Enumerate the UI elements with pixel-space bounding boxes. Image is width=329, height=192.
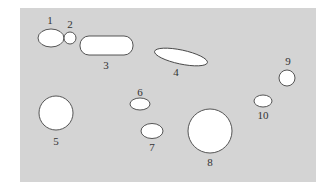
shape-label-10: 10	[258, 109, 270, 121]
shape-7	[141, 124, 163, 139]
shape-label-5: 5	[53, 135, 59, 147]
shape-label-3: 3	[103, 59, 109, 71]
shape-2	[64, 32, 76, 44]
gray-panel	[20, 8, 316, 182]
shape-9	[279, 70, 295, 86]
shape-8	[188, 109, 232, 153]
shape-3	[80, 36, 133, 55]
shapes-diagram: 12345678910	[0, 0, 329, 192]
shape-label-8: 8	[207, 156, 213, 168]
shape-label-6: 6	[137, 86, 143, 98]
shape-1	[38, 29, 64, 47]
shape-label-7: 7	[149, 141, 155, 153]
shape-5	[39, 96, 73, 130]
shape-label-2: 2	[67, 18, 73, 30]
shape-label-4: 4	[173, 66, 179, 78]
shape-label-9: 9	[285, 55, 291, 67]
shape-label-1: 1	[47, 14, 53, 26]
shape-10	[254, 95, 272, 107]
shape-6	[130, 98, 150, 110]
